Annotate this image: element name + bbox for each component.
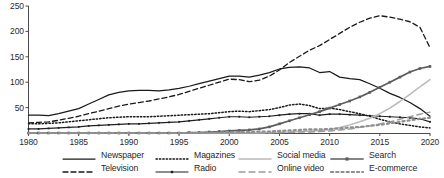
series-marker (359, 114, 361, 116)
series-marker (238, 116, 240, 118)
series-marker (419, 67, 422, 70)
series-marker (369, 115, 371, 117)
x-tick-label: 1985 (59, 137, 99, 147)
x-tick-label: 2010 (310, 137, 350, 147)
legend-swatch-icon (62, 163, 96, 173)
x-tick-label: 2000 (209, 137, 249, 147)
legend-column-2: MagazinesRadio (155, 148, 235, 174)
legend-label: Magazines (194, 150, 235, 160)
x-tick-label: 1995 (159, 137, 199, 147)
legend-swatch-icon (330, 150, 364, 160)
series-marker (168, 121, 170, 123)
series-marker (178, 121, 180, 123)
legend-label: Television (101, 163, 138, 173)
legend-label: Social media (277, 150, 326, 160)
series-marker (289, 113, 291, 115)
series-marker (399, 116, 401, 118)
series-marker (278, 123, 281, 126)
legend-item-social-media[interactable]: Social media (238, 148, 326, 161)
x-tick-label: 2015 (360, 137, 400, 147)
series-marker (218, 117, 220, 119)
legend-item-newspaper[interactable]: Newspaper (62, 148, 144, 161)
y-tick-label: 200 (2, 26, 24, 36)
series-marker (198, 119, 200, 121)
series-marker (348, 100, 351, 103)
series-marker (349, 114, 351, 116)
legend-column-4: SearchE-commerce (330, 148, 417, 174)
series-marker (268, 126, 271, 129)
series-marker (48, 128, 50, 130)
legend-swatch-icon (238, 163, 272, 173)
series-marker (318, 110, 321, 113)
series-marker (128, 123, 130, 125)
series-marker (379, 86, 382, 89)
series-marker (409, 71, 412, 74)
series-line-television (29, 16, 431, 123)
x-tick-label: 2020 (410, 137, 444, 147)
series-marker (279, 114, 281, 116)
series-marker (28, 128, 30, 130)
series-marker (288, 120, 291, 123)
series-marker (329, 113, 331, 115)
series-marker (118, 123, 120, 125)
legend-label: Online video (277, 163, 324, 173)
series-marker (138, 123, 140, 125)
series-marker (188, 120, 190, 122)
legend-item-magazines[interactable]: Magazines (155, 148, 235, 161)
series-marker (299, 113, 301, 115)
x-tick-label: 2005 (259, 137, 299, 147)
y-tick-label: 50 (2, 103, 24, 113)
series-marker (399, 76, 402, 79)
legend-item-search[interactable]: Search (330, 148, 417, 161)
legend-swatch-icon (62, 150, 96, 160)
series-marker (338, 103, 341, 106)
legend-column-1: NewspaperTelevision (62, 148, 144, 174)
series-marker (248, 129, 251, 132)
series-marker (298, 116, 301, 119)
series-marker (319, 114, 321, 116)
legend-swatch-icon (330, 163, 364, 173)
legend-label: Search (369, 150, 396, 160)
series-marker (339, 113, 341, 115)
series-marker (379, 115, 381, 117)
y-tick-label: 250 (2, 1, 24, 11)
chart-legend: NewspaperTelevision MagazinesRadio Socia… (0, 148, 437, 178)
series-marker (228, 116, 230, 118)
legend-swatch-icon (238, 150, 272, 160)
series-marker (158, 122, 160, 124)
legend-item-radio[interactable]: Radio (155, 161, 235, 174)
series-marker (258, 116, 260, 118)
legend-item-online-video[interactable]: Online video (238, 161, 326, 174)
x-tick-label: 1990 (109, 137, 149, 147)
series-marker (429, 65, 432, 68)
series-marker (258, 128, 261, 131)
series-marker (38, 128, 40, 130)
legend-item-e-commerce[interactable]: E-commerce (330, 161, 417, 174)
series-marker (248, 116, 250, 118)
legend-swatch-icon (155, 163, 189, 173)
data-series-group (27, 16, 431, 135)
series-marker (78, 126, 80, 128)
series-marker (389, 81, 392, 84)
series-marker (98, 124, 100, 126)
legend-label: Newspaper (101, 150, 144, 160)
series-marker (389, 116, 391, 118)
series-marker (208, 118, 210, 120)
legend-label: Radio (194, 163, 216, 173)
series-marker (88, 125, 90, 127)
series-marker (68, 127, 70, 129)
series-marker (308, 113, 311, 116)
series-marker (358, 96, 361, 99)
y-tick-label: 100 (2, 77, 24, 87)
legend-item-television[interactable]: Television (62, 161, 144, 174)
legend-label: E-commerce (369, 163, 417, 173)
legend-column-3: Social mediaOnline video (238, 148, 326, 174)
series-marker (368, 91, 371, 94)
series-marker (269, 115, 271, 117)
legend-swatch-icon (155, 150, 189, 160)
series-marker (429, 121, 431, 123)
series-marker (328, 107, 331, 110)
x-tick-label: 1980 (9, 137, 49, 147)
series-marker (108, 124, 110, 126)
